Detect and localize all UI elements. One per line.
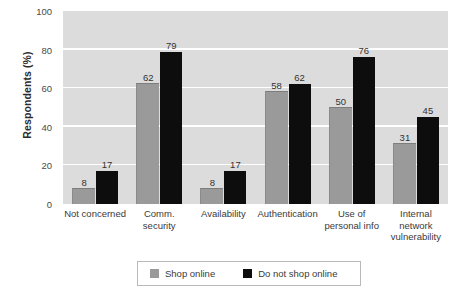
legend-swatch-icon-do-not-shop-online (243, 269, 252, 278)
bar-group: 5076 (329, 11, 375, 204)
bar-value-label: 8 (81, 177, 86, 188)
y-axis-tick-label: 0 (47, 199, 52, 210)
bars-layer: 8176279817586250763145 (63, 11, 448, 204)
x-axis-category-labels: Not concernedComm.securityAvailabilityAu… (63, 208, 448, 260)
legend-label-do-not-shop-online: Do not shop online (258, 268, 337, 279)
x-axis-category-label: Authentication (256, 208, 320, 220)
bar-group: 6279 (136, 11, 182, 204)
y-axis-tick-label: 40 (41, 121, 52, 132)
bar-group: 3145 (393, 11, 439, 204)
bar-value-label: 58 (271, 80, 282, 91)
bar: 58 (265, 91, 288, 204)
x-axis-category-label: Use ofpersonal info (320, 208, 384, 231)
bar-value-label: 45 (423, 105, 434, 116)
bar-chart: Respondents (%) 020406080100 81762798175… (0, 0, 467, 293)
bar-value-label: 31 (400, 132, 411, 143)
bar: 62 (136, 83, 159, 204)
bar: 50 (329, 107, 352, 205)
bar-value-label: 76 (358, 45, 369, 56)
chart-legend: Shop online Do not shop online (137, 261, 361, 286)
bar: 17 (224, 171, 246, 204)
bar-group: 817 (200, 11, 246, 204)
bar-value-label: 17 (102, 159, 113, 170)
bar: 79 (160, 52, 182, 204)
bar: 76 (353, 57, 375, 204)
bar-value-label: 17 (230, 159, 241, 170)
y-axis-ticks: 020406080100 (0, 11, 58, 204)
legend-label-shop-online: Shop online (165, 268, 215, 279)
bar-value-label: 62 (294, 72, 305, 83)
bar: 31 (393, 143, 416, 204)
bar-value-label: 79 (166, 40, 177, 51)
bar: 17 (96, 171, 118, 204)
x-axis-category-label: Internalnetworkvulnerability (384, 208, 448, 243)
y-axis-tick-label: 60 (41, 83, 52, 94)
bar: 45 (417, 117, 439, 204)
x-axis-category-label: Not concerned (63, 208, 127, 220)
legend-swatch-icon-shop-online (150, 269, 159, 278)
bar-group: 5862 (265, 11, 311, 204)
y-axis-tick-label: 80 (41, 44, 52, 55)
plot-area: 8176279817586250763145 (63, 11, 448, 204)
legend-item-shop-online: Shop online (150, 268, 215, 279)
bar-value-label: 50 (335, 96, 346, 107)
y-axis-tick-label: 20 (41, 160, 52, 171)
x-axis-category-label: Comm.security (127, 208, 191, 231)
y-axis-tick-label: 100 (36, 6, 52, 17)
legend-item-do-not-shop-online: Do not shop online (243, 268, 337, 279)
bar-value-label: 8 (210, 177, 215, 188)
bar: 8 (200, 188, 223, 204)
bar: 62 (289, 84, 311, 204)
x-axis-category-label: Availability (191, 208, 255, 220)
bar: 8 (72, 188, 95, 204)
bar-group: 817 (72, 11, 118, 204)
bar-value-label: 62 (143, 72, 154, 83)
